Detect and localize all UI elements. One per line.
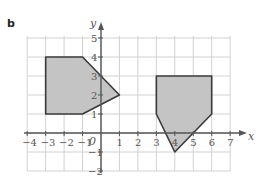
x-axis-label: x [248,130,255,143]
x-tick-label: 7 [227,137,233,148]
x-tick-label: 1 [116,137,122,148]
y-tick-label: 4 [91,52,97,63]
pentagon-left [46,57,120,114]
y-axis-label: y [89,17,97,30]
y-axis-arrow-icon [98,22,104,30]
y-tick-label: −2 [88,166,103,177]
x-tick-label: −2 [59,137,74,148]
y-tick-label: −1 [88,147,103,158]
x-tick-label: 4 [172,137,178,148]
y-tick-label: 5 [91,33,97,44]
x-tick-label: 2 [135,137,141,148]
y-tick-label: 3 [91,71,97,82]
x-tick-label: 6 [209,137,215,148]
x-tick-label: −3 [41,137,56,148]
x-tick-label: 5 [190,137,196,148]
y-tick-label: 2 [91,90,97,101]
x-axis-arrow-icon [239,130,247,136]
y-tick-label: 1 [91,109,97,120]
coordinate-grid-figure: b x y 0 −4−3−2−1123456754321−1−2 [0,0,259,183]
pentagon-right [156,76,211,152]
figure-label: b [7,17,15,30]
x-tick-label: −4 [22,137,37,148]
x-tick-label: 3 [153,137,159,148]
